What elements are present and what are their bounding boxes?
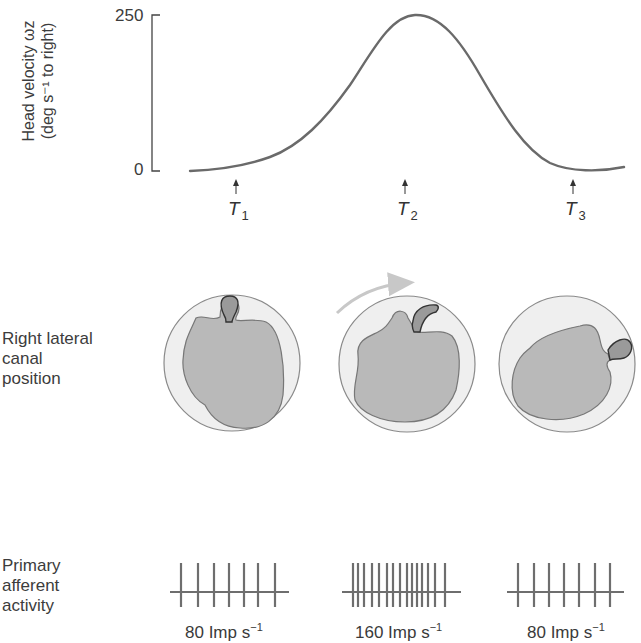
rate-label-t2: 160 Imp s−1 <box>355 621 442 643</box>
spike-train-t1 <box>170 563 289 607</box>
rate-label-t1: 80 Imp s−1 <box>185 621 263 643</box>
spike-train-t2 <box>342 563 461 607</box>
spike-train-t3 <box>507 563 624 607</box>
rate-label-t3: 80 Imp s−1 <box>527 621 605 643</box>
